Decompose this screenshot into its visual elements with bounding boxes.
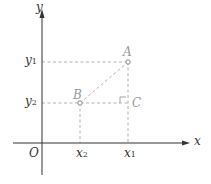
- point-b-label: B: [73, 88, 82, 102]
- origin-label: O: [29, 146, 39, 160]
- tick-y2-base: y: [25, 94, 32, 108]
- guide-lines: [42, 62, 128, 143]
- point-c-label: C: [132, 96, 141, 110]
- tick-x2: x2: [76, 146, 88, 160]
- y-axis-label: y: [36, 0, 43, 14]
- x-arrow-icon: [182, 141, 190, 146]
- right-angle-icon: [120, 97, 126, 103]
- tick-x1: x1: [124, 146, 136, 160]
- tick-x2-base: x: [76, 146, 83, 160]
- tick-y2-sub: 2: [32, 98, 37, 107]
- tick-y1: y1: [25, 53, 37, 67]
- x-axis-label: x: [194, 134, 201, 148]
- coordinate-diagram: y x O A B C y1 y2 x2 x1: [0, 0, 211, 184]
- tick-y1-base: y: [25, 53, 32, 67]
- tick-x1-base: x: [124, 146, 131, 160]
- tick-y2: y2: [25, 94, 37, 108]
- tick-x1-sub: 1: [131, 150, 136, 159]
- point-a: [126, 60, 130, 64]
- tick-y1-sub: 1: [32, 57, 37, 66]
- point-a-label: A: [123, 45, 132, 59]
- tick-x2-sub: 2: [83, 150, 88, 159]
